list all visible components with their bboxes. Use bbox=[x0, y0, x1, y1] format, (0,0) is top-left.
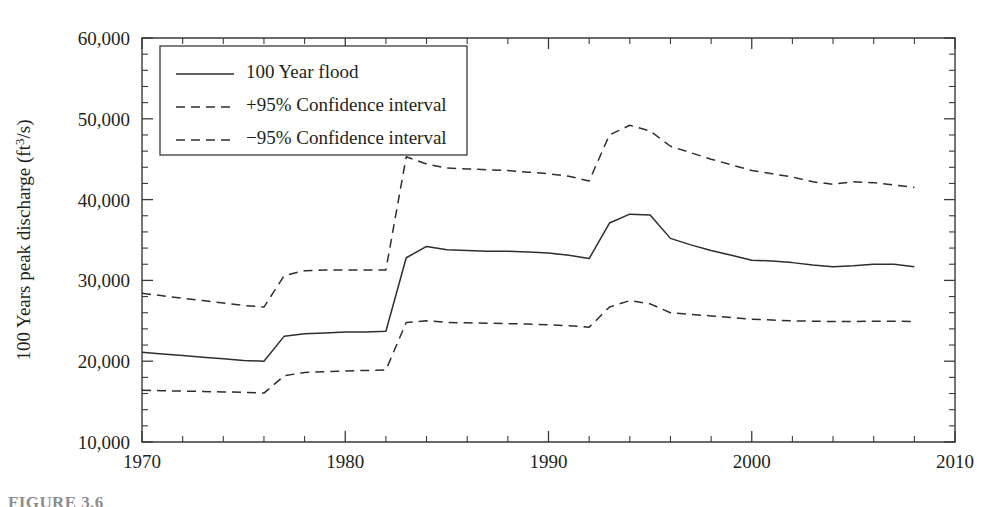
y-tick-label: 20,000 bbox=[78, 351, 130, 372]
legend-item-label: +95% Confidence interval bbox=[246, 94, 447, 115]
series-line-95-confidence-interval bbox=[142, 301, 914, 394]
y-tick-label: 30,000 bbox=[78, 270, 130, 291]
x-tick-label: 1970 bbox=[123, 451, 161, 472]
figure-caption: FIGURE 3.6 bbox=[8, 493, 104, 507]
chart-legend: 100 Year flood+95% Confidence interval−9… bbox=[160, 46, 467, 155]
y-tick-label: 60,000 bbox=[78, 28, 130, 49]
x-tick-label: 2010 bbox=[936, 451, 974, 472]
legend-item-label: −95% Confidence interval bbox=[246, 127, 447, 148]
data-series-group bbox=[142, 125, 914, 393]
y-axis-title: 100 Years peak discharge (ft3/s) bbox=[12, 120, 35, 361]
x-tick-label: 1980 bbox=[326, 451, 364, 472]
x-axis-tick-labels: 19701980199020002010 bbox=[123, 451, 974, 472]
y-tick-label: 40,000 bbox=[78, 190, 130, 211]
series-line-100-year-flood bbox=[142, 214, 914, 361]
y-tick-label: 50,000 bbox=[78, 109, 130, 130]
y-tick-label: 10,000 bbox=[78, 432, 130, 453]
x-tick-label: 1990 bbox=[530, 451, 568, 472]
legend-item-label: 100 Year flood bbox=[246, 61, 359, 82]
x-tick-label: 2000 bbox=[733, 451, 771, 472]
y-axis-tick-labels: 10,00020,00030,00040,00050,00060,000 bbox=[78, 28, 130, 453]
